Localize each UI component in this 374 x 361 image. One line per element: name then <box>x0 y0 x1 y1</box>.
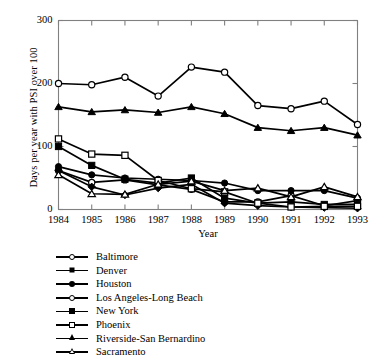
plot-area <box>0 0 374 245</box>
legend-item[interactable]: Los Angeles-Long Beach <box>56 291 366 305</box>
legend-marker-glyph <box>69 281 75 287</box>
legend-item-label: Phoenix <box>88 318 130 332</box>
chart-legend: BaltimoreDenverHoustonLos Angeles-Long B… <box>56 250 366 359</box>
legend-item-label: Los Angeles-Long Beach <box>88 291 203 305</box>
legend-item[interactable]: Riverside-San Bernardino <box>56 332 366 346</box>
chart-figure: Days per year with PSI over 100 Year Bal… <box>0 0 374 361</box>
legend-item-label: Riverside-San Bernardino <box>88 332 205 346</box>
legend-marker-square-fill-icon <box>56 305 88 318</box>
legend-marker-glyph <box>69 334 75 340</box>
legend-item-label: Sacramento <box>88 345 146 359</box>
legend-marker-circle-open-icon <box>56 291 88 304</box>
x-axis-tick-label: 1993 <box>338 214 374 225</box>
legend-item-label: Denver <box>88 264 127 278</box>
y-axis-tick-label: 0 <box>21 203 53 214</box>
legend-item[interactable]: Sacramento <box>56 345 366 359</box>
series-los-angeles-long-beach <box>55 64 360 128</box>
legend-marker-glyph <box>69 254 75 260</box>
legend-item[interactable]: Phoenix <box>56 318 366 332</box>
legend-item-label: New York <box>88 304 139 318</box>
legend-item[interactable]: Houston <box>56 277 366 291</box>
legend-item-label: Houston <box>88 277 132 291</box>
series-phoenix <box>55 136 360 210</box>
legend-item[interactable]: New York <box>56 304 366 318</box>
legend-marker-circle-fill-icon <box>56 277 88 290</box>
legend-item-label: Baltimore <box>88 250 138 264</box>
legend-marker-glyph <box>69 348 75 354</box>
legend-marker-square-open-icon <box>56 318 88 331</box>
legend-marker-glyph <box>70 268 75 273</box>
legend-item[interactable]: Denver <box>56 264 366 278</box>
series-riverside-san-bernardino <box>55 103 361 138</box>
legend-marker-circle-open-icon <box>56 250 88 263</box>
legend-marker-glyph <box>69 308 75 314</box>
legend-marker-glyph <box>69 295 75 301</box>
y-axis-tick-label: 200 <box>21 77 53 88</box>
legend-marker-tri-open-icon <box>56 345 88 358</box>
x-axis-label: Year <box>58 228 358 239</box>
legend-item[interactable]: Baltimore <box>56 250 366 264</box>
y-axis-tick-label: 100 <box>21 140 53 151</box>
legend-marker-glyph <box>69 322 75 328</box>
legend-marker-tri-fill-icon <box>56 332 88 345</box>
legend-marker-diamond-fill-icon <box>56 264 88 277</box>
y-axis-tick-label: 300 <box>21 14 53 25</box>
